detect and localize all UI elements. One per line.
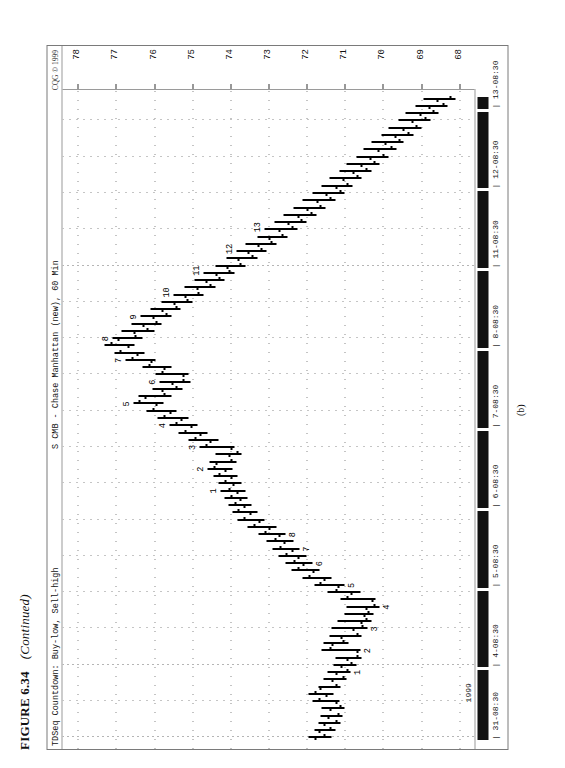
ohlc-bar	[215, 453, 242, 455]
ohlc-open-tick	[144, 397, 146, 399]
ohlc-bar	[112, 337, 143, 339]
ohlc-close-tick	[134, 335, 136, 337]
ohlc-open-tick	[142, 325, 144, 327]
ohlc-close-tick	[382, 154, 384, 156]
countdown-sell-label: 11	[192, 266, 201, 276]
ohlc-close-tick	[175, 422, 177, 424]
price-tick-mark	[192, 84, 193, 89]
ohlc-close-tick	[350, 662, 352, 664]
ohlc-close-tick	[323, 734, 325, 736]
ohlc-close-tick	[319, 582, 321, 584]
ohlc-close-tick	[318, 698, 320, 700]
ohlc-open-tick	[318, 731, 320, 733]
ohlc-close-tick	[224, 480, 226, 482]
ohlc-open-tick	[169, 412, 171, 414]
ohlc-bar	[257, 236, 288, 238]
ohlc-open-tick	[302, 564, 304, 566]
ohlc-close-tick	[218, 473, 220, 475]
ohlc-bar	[125, 359, 156, 361]
ohlc-bar	[398, 119, 430, 121]
ohlc-bar	[159, 381, 190, 383]
ohlc-open-tick	[268, 528, 270, 530]
ohlc-bar	[228, 504, 251, 506]
ohlc-open-tick	[226, 267, 228, 269]
grid-line-horizontal	[306, 90, 307, 749]
ohlc-close-tick	[329, 197, 331, 199]
ohlc-open-tick	[127, 346, 129, 348]
ohlc-bar	[178, 432, 207, 434]
ohlc-bar	[278, 555, 307, 557]
countdown-sell-label: 8	[101, 336, 110, 341]
ohlc-bar	[405, 112, 437, 114]
ohlc-bar	[344, 613, 373, 615]
grid-line-horizontal	[192, 90, 193, 749]
countdown-buy-label: 2	[363, 648, 372, 653]
ohlc-close-tick	[213, 466, 215, 468]
ohlc-close-tick	[356, 633, 358, 635]
ohlc-open-tick	[371, 600, 373, 602]
ohlc-open-tick	[278, 535, 280, 537]
figure-caption: FIGURE 6.34(Continued)	[16, 594, 32, 750]
ohlc-open-tick	[258, 521, 260, 523]
ohlc-open-tick	[180, 419, 182, 421]
ohlc-bar	[121, 330, 153, 332]
price-tick-mark	[230, 84, 231, 89]
time-axis-segment	[477, 112, 488, 189]
ohlc-open-tick	[150, 361, 152, 363]
ohlc-open-tick	[171, 383, 173, 385]
countdown-sell-label: 9	[129, 314, 138, 319]
ohlc-bar	[173, 294, 204, 296]
price-axis: 7877767574737271706968	[62, 45, 474, 89]
ohlc-close-tick	[361, 626, 363, 628]
plot-area[interactable]: 1234567812345678910111213	[62, 89, 474, 749]
time-axis-segment	[477, 511, 488, 588]
countdown-buy-label: 1	[353, 670, 362, 675]
ohlc-close-tick	[281, 234, 283, 236]
time-tick-label: | 6-08:30	[490, 465, 499, 508]
ohlc-close-tick	[335, 684, 337, 686]
price-tick-label: 71	[340, 49, 349, 60]
grid-line-horizontal	[230, 90, 231, 749]
time-tick-label: | 7-08:30	[490, 385, 499, 428]
time-tick-label: | 5-08:30	[490, 544, 499, 587]
time-axis-segment	[477, 591, 488, 668]
ohlc-close-tick	[337, 713, 339, 715]
ohlc-bar	[415, 105, 447, 107]
countdown-sell-label: 3	[188, 445, 197, 450]
ohlc-open-tick	[237, 259, 239, 261]
ohlc-close-tick	[184, 430, 186, 432]
ohlc-close-tick	[407, 132, 409, 134]
price-tick-mark	[268, 84, 269, 89]
ohlc-bar	[226, 257, 257, 259]
ohlc-bar	[333, 664, 356, 666]
ohlc-open-tick	[133, 332, 135, 334]
time-axis-segment	[477, 97, 488, 109]
ohlc-close-tick	[398, 139, 400, 141]
ohlc-close-tick	[146, 328, 148, 330]
price-tick-mark	[382, 84, 383, 89]
ohlc-close-tick	[314, 691, 316, 693]
ohlc-open-tick	[190, 426, 192, 428]
ohlc-open-tick	[152, 317, 154, 319]
ohlc-open-tick	[224, 470, 226, 472]
ohlc-open-tick	[365, 608, 367, 610]
ohlc-close-tick	[155, 321, 157, 323]
ohlc-close-tick	[148, 364, 150, 366]
ohlc-open-tick	[335, 673, 337, 675]
ohlc-bar	[150, 308, 181, 310]
ohlc-bar	[194, 279, 225, 281]
ohlc-close-tick	[279, 546, 281, 548]
chart-study-label: TDSeq Countdown: Buy-low, Sell-high	[50, 567, 60, 746]
ohlc-close-tick	[237, 509, 239, 511]
ohlc-close-tick	[415, 125, 417, 127]
ohlc-bar	[312, 192, 344, 194]
countdown-sell-label: 4	[158, 423, 167, 428]
ohlc-open-tick	[327, 717, 329, 719]
ohlc-open-tick	[312, 571, 314, 573]
ohlc-open-tick	[163, 368, 165, 370]
ohlc-close-tick	[308, 575, 310, 577]
ohlc-bar	[318, 722, 341, 724]
ohlc-close-tick	[285, 553, 287, 555]
ohlc-open-tick	[314, 738, 316, 740]
ohlc-close-tick	[239, 263, 241, 265]
